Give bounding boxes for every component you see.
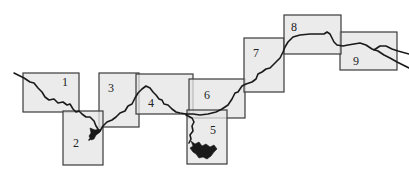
river-map-index-diagram: 1 2 3 4 5 6 7 8 9: [0, 0, 409, 176]
panel-4: [136, 74, 193, 114]
panel-7: [244, 38, 284, 92]
panel-label-7: 7: [253, 47, 259, 59]
panel-label-3: 3: [108, 82, 114, 94]
panel-9: [340, 32, 397, 70]
panel-label-5: 5: [210, 124, 216, 136]
panel-label-6: 6: [204, 89, 210, 101]
panel-label-9: 9: [353, 55, 359, 67]
panel-label-2: 2: [73, 137, 79, 149]
panel-label-1: 1: [62, 76, 68, 88]
panel-2: [63, 111, 103, 165]
panel-label-4: 4: [148, 97, 154, 109]
panel-3: [99, 73, 139, 127]
panel-label-8: 8: [291, 21, 297, 33]
